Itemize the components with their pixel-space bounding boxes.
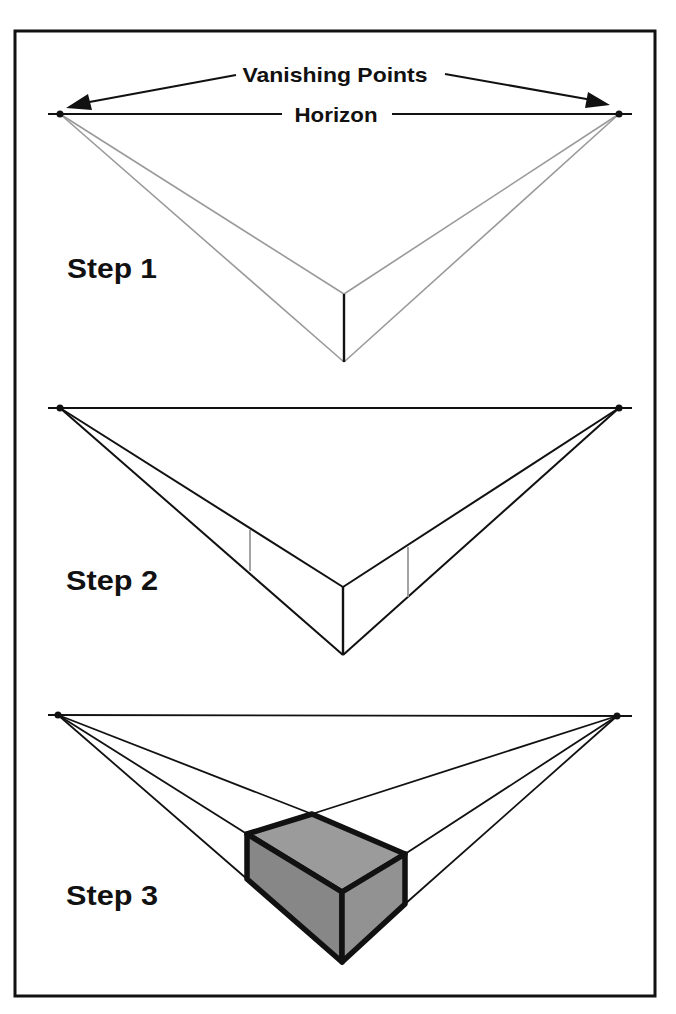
vanishing-point-right-icon [614, 713, 621, 720]
horizon-label: Horizon [295, 103, 378, 126]
vanishing-point-left-icon [57, 111, 64, 118]
step-1-label: Step 1 [67, 254, 157, 284]
vanishing-point-right-icon [616, 111, 623, 118]
step-2-label: Step 2 [66, 566, 158, 596]
vanishing-points-label: Vanishing Points [243, 63, 428, 86]
step-3-label: Step 3 [66, 881, 158, 911]
two-point-perspective-diagram: Vanishing Points Horizon Step 1 [0, 0, 676, 1014]
vanishing-point-right-icon [616, 405, 623, 412]
horizon-line [48, 715, 632, 716]
vanishing-point-left-icon [57, 405, 64, 412]
vanishing-point-left-icon [55, 712, 62, 719]
